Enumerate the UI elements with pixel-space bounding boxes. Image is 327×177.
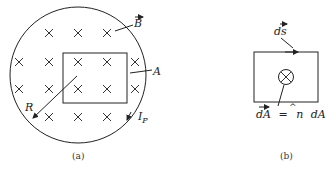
figure-a: B A R IP (a) xyxy=(10,7,161,161)
unit-normal-hat-icon: ^ xyxy=(289,102,297,112)
circled-cross-into-page-icon xyxy=(279,70,294,85)
field-x-mark-icon xyxy=(15,58,23,66)
field-x-mark-icon xyxy=(45,85,53,93)
figure-canvas: B A R IP (a) ds dA = n xyxy=(0,0,327,177)
da-leader-line xyxy=(278,85,284,106)
ds-label: ds xyxy=(274,25,287,38)
da-vector-lhs: dA xyxy=(256,108,271,121)
current-subscript: P xyxy=(141,116,148,125)
radius-label: R xyxy=(24,101,33,114)
field-into-page-marks xyxy=(15,29,139,121)
caption-b: (b) xyxy=(280,151,293,161)
figure-b: ds dA = n dA ^ (b) xyxy=(254,24,326,161)
field-x-mark-icon xyxy=(45,113,53,121)
field-x-mark-icon xyxy=(74,29,82,37)
field-x-mark-icon xyxy=(15,85,23,93)
field-x-mark-icon xyxy=(74,85,82,93)
field-x-mark-icon xyxy=(103,85,111,93)
equals-sign: = xyxy=(279,108,288,121)
area-label-a: A xyxy=(152,65,161,78)
b-field-label: B xyxy=(133,17,142,30)
field-x-mark-icon xyxy=(74,113,82,121)
b-leader-line xyxy=(115,25,133,31)
field-x-mark-icon xyxy=(45,58,53,66)
field-x-mark-icon xyxy=(103,29,111,37)
unit-normal-n: n xyxy=(296,108,303,121)
da-scalar-rhs: dA xyxy=(311,108,326,121)
area-rectangle-a xyxy=(63,53,127,103)
field-x-mark-icon xyxy=(103,58,111,66)
caption-a: (a) xyxy=(72,151,84,161)
field-x-mark-icon xyxy=(74,58,82,66)
field-x-mark-icon xyxy=(103,113,111,121)
field-x-mark-icon xyxy=(45,29,53,37)
current-label: IP xyxy=(137,110,148,125)
a-leader-line xyxy=(130,70,152,73)
field-x-mark-icon xyxy=(131,58,139,66)
radius-arrow xyxy=(33,76,77,118)
field-x-mark-icon xyxy=(131,85,139,93)
ds-leader-line xyxy=(281,38,293,48)
